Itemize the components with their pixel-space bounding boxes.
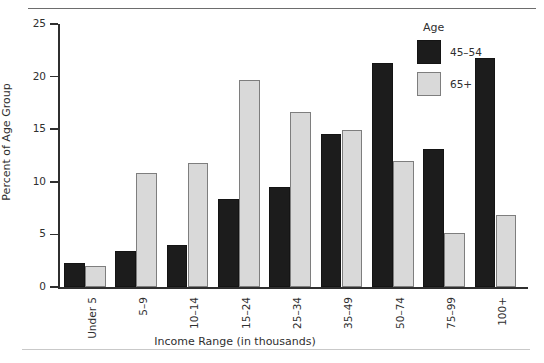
- bar-group: [113, 24, 164, 287]
- bar-4554-7599: [423, 149, 444, 287]
- legend-entry: 45–54: [417, 40, 527, 64]
- y-axis-tick: [50, 23, 58, 25]
- bar-65+-59: [136, 173, 157, 287]
- bar-4554-5074: [372, 63, 393, 287]
- y-axis-tick-label: 20: [16, 71, 46, 82]
- y-axis-tick-label: 25: [16, 18, 46, 29]
- bar-65+-7599: [444, 233, 465, 287]
- legend-entry-label: 45–54: [450, 46, 482, 58]
- y-axis-tick: [50, 181, 58, 183]
- bar-65+-100+: [496, 215, 517, 287]
- y-axis-tick: [50, 128, 58, 130]
- bar-group: [216, 24, 267, 287]
- x-axis-tick-label: 35–49: [342, 297, 354, 329]
- bottom-divider-rule: [22, 349, 530, 350]
- legend: Age 45–5465+: [417, 21, 527, 104]
- legend-entry: 65+: [417, 72, 527, 96]
- x-axis-tick-label: 15–24: [240, 297, 252, 329]
- y-axis-tick-label: 10: [16, 176, 46, 187]
- bar-group: [370, 24, 421, 287]
- x-axis-line: [58, 287, 528, 289]
- bar-4554-3549: [321, 134, 342, 287]
- x-axis-tick-label: 100+: [496, 297, 508, 326]
- legend-swatch-icon: [417, 40, 441, 64]
- x-axis-tick-label: 75–99: [445, 297, 457, 329]
- bar-4554-Under5: [64, 263, 85, 287]
- legend-entries: 45–5465+: [417, 40, 527, 96]
- x-axis-title: Income Range (in thousands): [154, 335, 316, 348]
- y-axis-title: Percent of Age Group: [0, 83, 13, 200]
- top-divider-rule: [28, 8, 536, 9]
- x-axis-tick-label: 5–9: [137, 297, 149, 316]
- bar-group: [267, 24, 318, 287]
- x-axis-tick-label: 25–34: [291, 297, 303, 329]
- bar-65+-5074: [393, 161, 414, 287]
- bar-4554-1524: [218, 199, 239, 287]
- chart-figure: Percent of Age Group 0510152025 Under 55…: [0, 0, 544, 363]
- legend-entry-label: 65+: [450, 78, 472, 90]
- legend-swatch-icon: [417, 72, 441, 96]
- legend-title: Age: [423, 21, 527, 34]
- bar-group: [165, 24, 216, 287]
- x-axis-tick-label: Under 5: [86, 297, 98, 339]
- bar-group: [319, 24, 370, 287]
- bar-65+-1524: [239, 80, 260, 287]
- bar-65+-Under5: [85, 266, 106, 287]
- bar-4554-2534: [269, 187, 290, 287]
- bar-group: [62, 24, 113, 287]
- x-axis-tick-label: 50–74: [394, 297, 406, 329]
- y-axis-tick-label: 15: [16, 123, 46, 134]
- bar-65+-1014: [188, 163, 209, 287]
- y-axis-tick-label: 0: [16, 281, 46, 292]
- bar-4554-1014: [167, 245, 188, 287]
- bar-65+-2534: [290, 112, 311, 287]
- y-axis-tick-label: 5: [16, 228, 46, 239]
- y-axis-tick: [50, 286, 58, 288]
- y-axis-tick: [50, 234, 58, 236]
- bar-4554-59: [115, 251, 136, 287]
- x-axis-tick-label: 10–14: [188, 297, 200, 329]
- y-axis-tick: [50, 76, 58, 78]
- bar-65+-3549: [342, 130, 363, 287]
